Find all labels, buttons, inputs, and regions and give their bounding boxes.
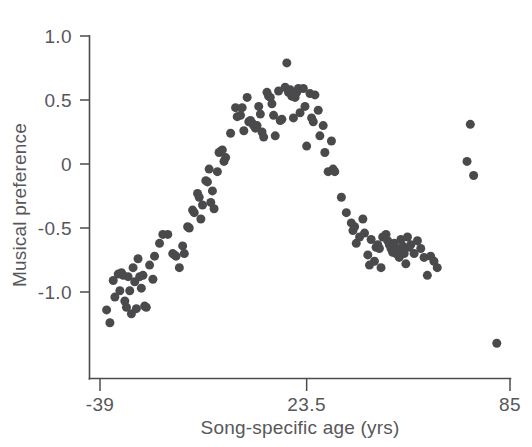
x-tick-label: -39 bbox=[86, 394, 115, 415]
data-point bbox=[172, 252, 181, 261]
data-point bbox=[115, 286, 124, 295]
data-point bbox=[267, 99, 276, 108]
data-point bbox=[148, 275, 157, 284]
data-point bbox=[129, 263, 138, 272]
data-point bbox=[463, 157, 472, 166]
scatter-plot-figure: 1.00.50-0.5-1.0 -3923.585 Song-specific … bbox=[0, 0, 532, 447]
y-tick-label: -0.5 bbox=[38, 218, 72, 239]
data-point bbox=[134, 254, 143, 263]
data-point bbox=[105, 318, 114, 327]
data-point bbox=[310, 90, 319, 99]
data-point bbox=[358, 215, 367, 224]
data-point bbox=[403, 232, 412, 241]
data-point bbox=[155, 239, 164, 248]
x-tick-label: 23.5 bbox=[287, 394, 326, 415]
data-point bbox=[208, 186, 217, 195]
data-point bbox=[466, 120, 475, 129]
data-point bbox=[256, 110, 265, 119]
data-point bbox=[185, 224, 194, 233]
data-point bbox=[226, 129, 235, 138]
data-point bbox=[327, 136, 336, 145]
data-point bbox=[203, 177, 212, 186]
data-point bbox=[243, 93, 252, 102]
data-point bbox=[309, 117, 318, 126]
data-point bbox=[102, 305, 111, 314]
data-point bbox=[218, 145, 227, 154]
data-point bbox=[370, 257, 379, 266]
y-tick-label: 0.5 bbox=[44, 90, 72, 111]
data-point bbox=[314, 106, 323, 115]
x-axis-title: Song-specific age (yrs) bbox=[201, 417, 400, 438]
y-tick-label: 0 bbox=[61, 154, 72, 175]
data-point bbox=[271, 131, 280, 140]
data-point bbox=[178, 241, 187, 250]
data-point bbox=[319, 121, 328, 130]
data-point bbox=[190, 208, 199, 217]
data-point bbox=[205, 165, 214, 174]
data-point bbox=[469, 171, 478, 180]
data-point bbox=[330, 167, 339, 176]
data-point bbox=[196, 215, 205, 224]
data-point bbox=[350, 222, 359, 231]
data-point bbox=[360, 229, 369, 238]
y-tick-label: -1.0 bbox=[38, 282, 72, 303]
data-point bbox=[282, 58, 291, 67]
y-axis-title: Musical preference bbox=[9, 123, 30, 287]
data-point bbox=[150, 252, 159, 261]
y-tick-label: 1.0 bbox=[44, 26, 72, 47]
x-axis-ticks: -3923.585 bbox=[86, 379, 521, 415]
data-points-layer bbox=[102, 58, 501, 347]
data-point bbox=[342, 208, 351, 217]
data-point bbox=[125, 286, 134, 295]
y-axis-ticks: 1.00.50-0.5-1.0 bbox=[38, 26, 90, 303]
data-point bbox=[277, 115, 286, 124]
data-point bbox=[195, 193, 204, 202]
data-point bbox=[180, 249, 189, 258]
data-point bbox=[163, 230, 172, 239]
data-point bbox=[301, 102, 310, 111]
data-point bbox=[320, 148, 329, 157]
data-point bbox=[175, 263, 184, 272]
data-point bbox=[302, 142, 311, 151]
plot-svg: 1.00.50-0.5-1.0 -3923.585 Song-specific … bbox=[0, 0, 532, 447]
data-point bbox=[423, 271, 432, 280]
x-tick-label: 85 bbox=[499, 394, 521, 415]
data-point bbox=[416, 244, 425, 253]
data-point bbox=[137, 284, 146, 293]
data-point bbox=[142, 303, 151, 312]
data-point bbox=[377, 263, 386, 272]
data-point bbox=[238, 103, 247, 112]
data-point bbox=[138, 271, 147, 280]
data-point bbox=[198, 200, 207, 209]
data-point bbox=[132, 304, 141, 313]
data-point bbox=[363, 250, 372, 259]
data-point bbox=[210, 204, 219, 213]
data-point bbox=[254, 102, 263, 111]
data-point bbox=[375, 244, 384, 253]
data-point bbox=[213, 167, 222, 176]
data-point bbox=[337, 193, 346, 202]
data-point bbox=[239, 126, 248, 135]
data-point bbox=[413, 236, 422, 245]
data-point bbox=[433, 263, 442, 272]
data-point bbox=[236, 111, 245, 120]
data-point bbox=[315, 131, 324, 140]
data-point bbox=[259, 133, 268, 142]
data-point bbox=[221, 153, 230, 162]
data-point bbox=[401, 259, 410, 268]
data-point bbox=[492, 339, 501, 348]
data-point bbox=[145, 261, 154, 270]
